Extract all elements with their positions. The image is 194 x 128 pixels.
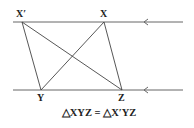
label-x: X (100, 8, 108, 19)
label-y: Y (37, 92, 45, 103)
diagram-caption: △XYZ = △X′YZ (61, 107, 137, 118)
segment-x-y (41, 22, 104, 90)
label-z: Z (118, 92, 125, 103)
segment-xprime-y (22, 22, 41, 90)
label-x-prime: X′ (16, 8, 26, 19)
parallel-lines-triangle-diagram: X′ X Y Z △XYZ = △X′YZ (0, 0, 194, 128)
